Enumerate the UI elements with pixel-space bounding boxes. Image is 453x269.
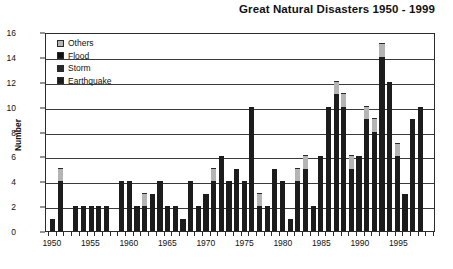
chart-title: Great Natural Disasters 1950 - 1999 [239,3,435,15]
legend-item-earthquake[interactable]: Earthquake [57,76,111,86]
bar-segment-earthquake [356,156,361,231]
table-row [379,43,384,231]
x-tick-mark [117,232,118,236]
legend-item-flood[interactable]: Flood [57,51,111,61]
table-row [203,194,208,231]
bar-slot [164,34,172,231]
table-row [249,107,254,231]
x-tick-mark [202,232,203,236]
y-tick-label: 8 [0,128,16,138]
table-row [410,119,415,231]
bar-slot [271,34,279,231]
x-tick-mark [133,232,134,236]
bar-segment-earthquake [364,119,369,231]
bar-slot [424,34,432,231]
x-tick-label: 1980 [273,238,292,248]
bar-segment-earthquake [379,57,384,231]
bar-segment-earthquake [295,181,300,231]
bar-slot [371,34,379,231]
bar-segment-earthquake [226,181,231,231]
legend-item-others[interactable]: Others [57,38,111,48]
bar-segment-earthquake [89,206,94,231]
bar-segment-earthquake [326,107,331,231]
table-row [226,181,231,231]
bar-segment-earthquake [341,107,346,231]
bar-slot [149,34,157,231]
table-row [196,206,201,231]
x-tick-mark [433,232,434,236]
bar-segment-earthquake [395,156,400,231]
y-tick-label: 16 [0,28,16,38]
legend-swatch-icon [57,65,64,72]
x-tick-label: 1970 [196,238,215,248]
x-axis-ticks [45,232,435,237]
y-tick-label: 6 [0,152,16,162]
bar-slot [286,34,294,231]
x-tick-label: 1960 [119,238,138,248]
x-tick-mark [210,232,211,236]
bar-segment-others [341,93,346,106]
bar-slot [133,34,141,231]
bar-slot [325,34,333,231]
x-tick-mark [379,232,380,236]
x-tick-mark [348,232,349,236]
table-row [157,181,162,231]
bar-segment-earthquake [127,181,132,231]
x-tick-mark [187,232,188,236]
bar-segment-earthquake [311,206,316,231]
x-tick-label: 1995 [389,238,408,248]
table-row [341,93,346,231]
bar-segment-earthquake [280,181,285,231]
legend-label: Earthquake [68,76,111,86]
x-tick-mark [248,232,249,236]
bar-slot [348,34,356,231]
legend-item-storm[interactable]: Storm [57,63,111,73]
bar-slot [233,34,241,231]
table-row [395,143,400,231]
bar-segment-others [142,193,147,206]
x-tick-mark [48,232,49,236]
table-row [257,193,262,231]
bar-slot [225,34,233,231]
x-tick-mark [56,232,57,236]
bar-segment-earthquake [372,132,377,232]
table-row [418,107,423,231]
table-row [96,206,101,231]
table-row [334,81,339,231]
bar-slot [363,34,371,231]
bar-segment-earthquake [96,206,101,231]
table-row [402,194,407,231]
bar-segment-earthquake [249,107,254,231]
bar-segment-earthquake [180,219,185,231]
bar-segment-earthquake [418,107,423,231]
bar-slot [409,34,417,231]
x-tick-mark [271,232,272,236]
table-row [58,168,63,231]
y-tick-label: 14 [0,53,16,63]
bar-segment-others [295,168,300,181]
bar-slot [394,34,402,231]
bar-segment-earthquake [402,194,407,231]
table-row [173,206,178,231]
bar-segment-earthquake [265,206,270,231]
x-tick-mark [387,232,388,236]
x-tick-mark [410,232,411,236]
y-tick-label: 12 [0,78,16,88]
bar-segment-earthquake [173,206,178,231]
bar-slot [118,34,126,231]
bar-slot [49,34,57,231]
x-tick-mark [156,232,157,236]
table-row [272,169,277,231]
x-tick-mark [395,232,396,236]
x-tick-mark [356,232,357,236]
bar-slot [217,34,225,231]
bar-slot [256,34,264,231]
x-tick-mark [325,232,326,236]
y-tick-label: 4 [0,177,16,187]
y-tick-label: 0 [0,227,16,237]
legend-swatch-icon [57,52,64,59]
bar-slot [401,34,409,231]
bar-slot [126,34,134,231]
bar-segment-earthquake [73,206,78,231]
table-row [303,155,308,231]
